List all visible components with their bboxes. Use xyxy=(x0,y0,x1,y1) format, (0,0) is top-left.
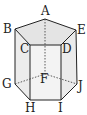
label-f: F xyxy=(40,72,48,86)
label-h: H xyxy=(25,101,35,115)
label-b: B xyxy=(3,22,12,36)
label-j: J xyxy=(76,79,83,93)
label-g: G xyxy=(2,77,12,91)
label-a: A xyxy=(40,4,50,18)
label-i: I xyxy=(58,101,63,115)
label-d: D xyxy=(62,42,72,56)
label-c: C xyxy=(20,42,29,56)
label-e: E xyxy=(77,23,86,37)
pentagonal-prism-diagram: A B C D E F G H I J xyxy=(0,0,87,115)
